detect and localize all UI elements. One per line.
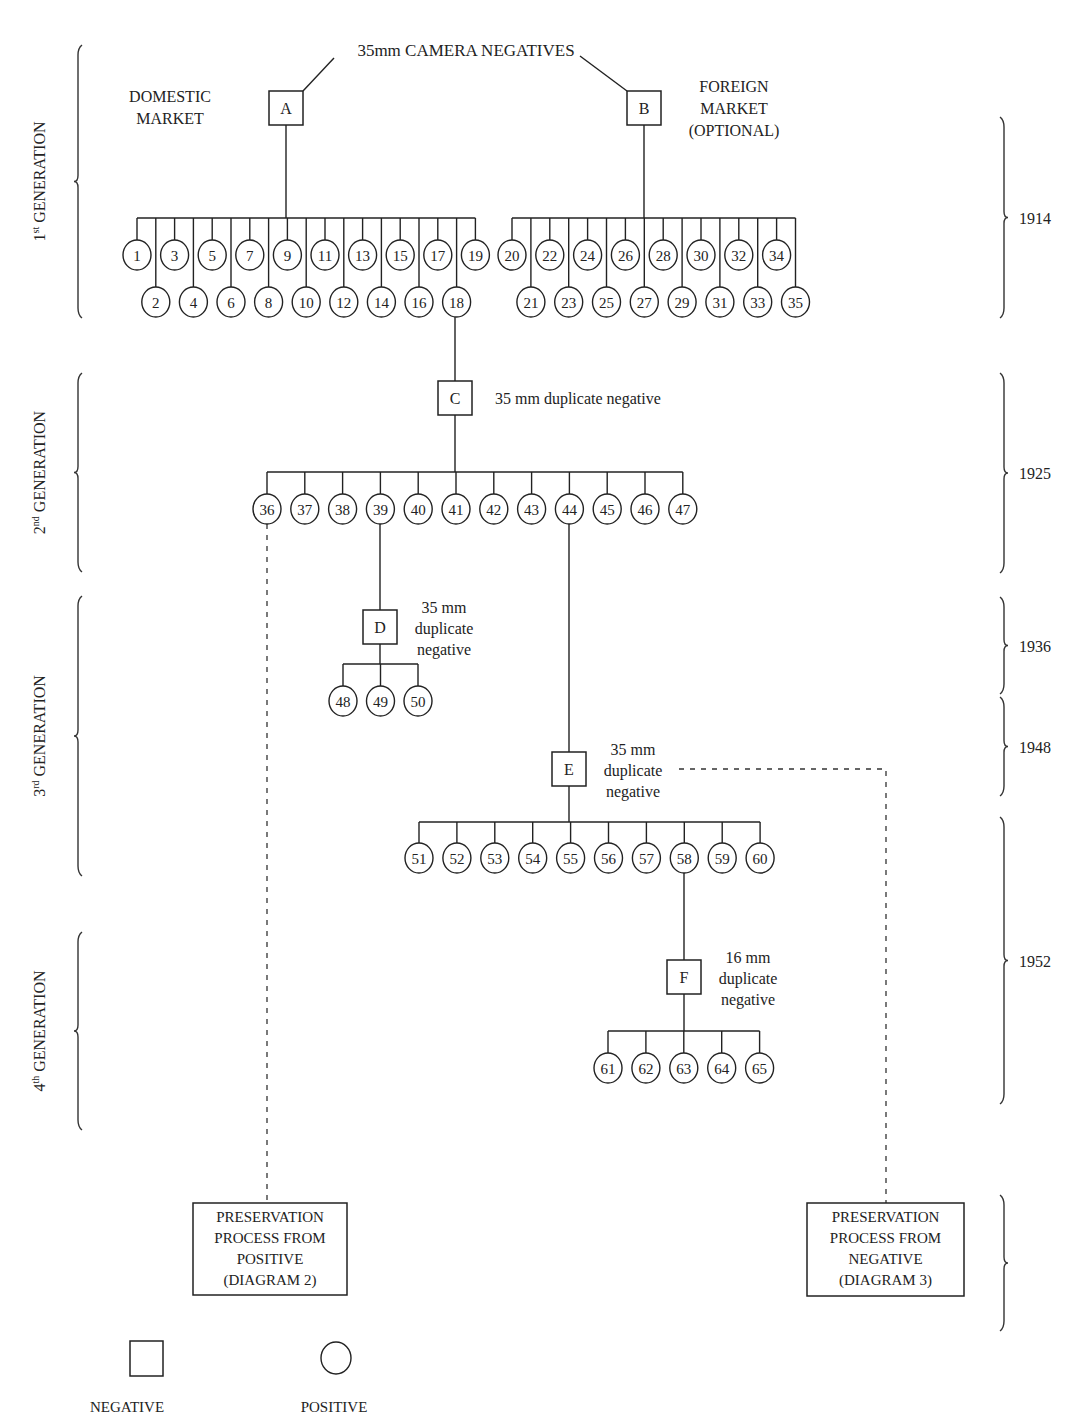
negative-note: duplicate bbox=[604, 762, 663, 780]
foreign-market-label: (OPTIONAL) bbox=[689, 122, 780, 140]
negative-note: 35 mm bbox=[611, 741, 656, 758]
positive-number: 29 bbox=[675, 295, 690, 311]
positive-number: 28 bbox=[656, 248, 671, 264]
positive-number: 37 bbox=[297, 502, 313, 518]
negative-note: negative bbox=[721, 991, 775, 1009]
positive-number: 39 bbox=[373, 502, 388, 518]
positive-number: 51 bbox=[412, 851, 427, 867]
negative-note: 35 mm duplicate negative bbox=[495, 390, 661, 408]
positive-number: 36 bbox=[260, 502, 276, 518]
positive-number: 24 bbox=[580, 248, 596, 264]
negative-note: duplicate bbox=[719, 970, 778, 988]
positive-number: 40 bbox=[411, 502, 426, 518]
positive-number: 17 bbox=[430, 248, 446, 264]
positive-number: 12 bbox=[336, 295, 351, 311]
positive-number: 52 bbox=[449, 851, 464, 867]
negative-note: negative bbox=[606, 783, 660, 801]
generation-brace-1 bbox=[74, 45, 82, 318]
positive-number: 58 bbox=[677, 851, 692, 867]
positive-number: 14 bbox=[374, 295, 390, 311]
positive-number: 57 bbox=[639, 851, 655, 867]
positive-number: 34 bbox=[769, 248, 785, 264]
negative-label: F bbox=[680, 969, 689, 986]
year-brace-5 bbox=[1000, 817, 1008, 1104]
legend-positive-label: POSITIVE bbox=[301, 1399, 368, 1415]
generation-label-2: 2nd GENERATION bbox=[30, 410, 48, 534]
positive-number: 16 bbox=[412, 295, 428, 311]
negative-note: 16 mm bbox=[726, 949, 771, 966]
preservation-text: PROCESS FROM bbox=[214, 1230, 325, 1246]
positive-number: 13 bbox=[355, 248, 370, 264]
negative-label: B bbox=[639, 100, 650, 117]
year-label: 1936 bbox=[1019, 638, 1051, 655]
positive-number: 22 bbox=[542, 248, 557, 264]
preservation-text: (DIAGRAM 3) bbox=[839, 1272, 932, 1289]
negative-label: A bbox=[280, 100, 292, 117]
positive-number: 20 bbox=[505, 248, 520, 264]
generation-label-4: 4th GENERATION bbox=[30, 970, 48, 1092]
foreign-market-label: MARKET bbox=[700, 100, 768, 117]
positive-number: 46 bbox=[638, 502, 654, 518]
positive-number: 10 bbox=[299, 295, 314, 311]
positive-number: 30 bbox=[694, 248, 709, 264]
positive-number: 3 bbox=[171, 248, 179, 264]
legend-negative-square-icon bbox=[130, 1341, 163, 1376]
preservation-text: POSITIVE bbox=[237, 1251, 304, 1267]
positive-number: 25 bbox=[599, 295, 614, 311]
positive-number: 62 bbox=[638, 1061, 653, 1077]
preservation-text: NEGATIVE bbox=[848, 1251, 922, 1267]
positive-number: 56 bbox=[601, 851, 617, 867]
positive-number: 43 bbox=[524, 502, 539, 518]
diagram-title: 35mm CAMERA NEGATIVES bbox=[357, 41, 574, 60]
preservation-text: (DIAGRAM 2) bbox=[224, 1272, 317, 1289]
positive-number: 7 bbox=[246, 248, 254, 264]
foreign-market-label: FOREIGN bbox=[699, 78, 769, 95]
domestic-market-label: MARKET bbox=[136, 110, 204, 127]
generation-brace-4 bbox=[74, 932, 82, 1130]
positive-number: 54 bbox=[525, 851, 541, 867]
positive-number: 38 bbox=[335, 502, 350, 518]
positive-number: 21 bbox=[523, 295, 538, 311]
positive-number: 44 bbox=[562, 502, 578, 518]
positive-number: 5 bbox=[208, 248, 216, 264]
year-label: 1925 bbox=[1019, 465, 1051, 482]
positive-number: 23 bbox=[561, 295, 576, 311]
positive-number: 61 bbox=[601, 1061, 616, 1077]
positive-number: 41 bbox=[449, 502, 464, 518]
positive-number: 9 bbox=[284, 248, 292, 264]
positive-number: 59 bbox=[715, 851, 730, 867]
positive-number: 18 bbox=[449, 295, 464, 311]
positive-number: 48 bbox=[336, 694, 351, 710]
generation-brace-2 bbox=[74, 373, 82, 572]
year-brace-4 bbox=[1000, 697, 1008, 796]
positive-number: 65 bbox=[752, 1061, 767, 1077]
positive-number: 32 bbox=[731, 248, 746, 264]
legend-negative-label: NEGATIVE bbox=[90, 1399, 164, 1415]
year-label: 1952 bbox=[1019, 953, 1051, 970]
positive-number: 33 bbox=[750, 295, 765, 311]
generation-brace-3 bbox=[74, 596, 82, 876]
preservation-text: PROCESS FROM bbox=[830, 1230, 941, 1246]
year-label: 1914 bbox=[1019, 210, 1051, 227]
connector-lines bbox=[74, 45, 1008, 1331]
negative-note: 35 mm bbox=[422, 599, 467, 616]
year-brace-6 bbox=[1000, 1195, 1008, 1331]
positive-number: 19 bbox=[468, 248, 483, 264]
pointer-line-b bbox=[580, 56, 627, 91]
generation-label-3: 3rd GENERATION bbox=[30, 675, 48, 797]
dashed-link-E-diagram-3 bbox=[679, 769, 886, 1203]
legend-positive-circle-icon bbox=[321, 1342, 351, 1374]
pointer-line-a bbox=[303, 58, 334, 91]
positive-number: 60 bbox=[753, 851, 768, 867]
positive-number: 53 bbox=[487, 851, 502, 867]
year-brace-2 bbox=[1000, 373, 1008, 573]
positive-number: 31 bbox=[712, 295, 727, 311]
positive-number: 50 bbox=[411, 694, 426, 710]
preservation-text: PRESERVATION bbox=[832, 1209, 940, 1225]
domestic-market-label: DOMESTIC bbox=[129, 88, 211, 105]
positive-number: 1 bbox=[133, 248, 141, 264]
negative-label: D bbox=[374, 619, 386, 636]
negative-label: C bbox=[450, 390, 461, 407]
negative-note: duplicate bbox=[415, 620, 474, 638]
nodes bbox=[123, 91, 964, 1376]
